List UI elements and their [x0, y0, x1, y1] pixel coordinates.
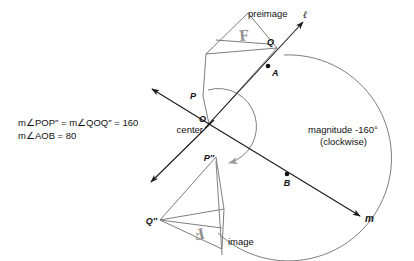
equation-line-2: m∠AOB = 80 — [18, 130, 76, 141]
rotation-diagram-svg: F F preimage — [0, 0, 414, 261]
image-shape: F — [160, 157, 224, 255]
rotation-arc — [208, 89, 256, 163]
point-q-label: Q — [267, 37, 274, 47]
line-ell-label: ℓ — [303, 9, 307, 20]
line-m-label: m — [365, 213, 374, 224]
line-m — [152, 89, 360, 216]
magnitude-label-line1: magnitude -160° — [308, 124, 378, 135]
point-o-label: O — [199, 114, 206, 124]
point-a-label: A — [271, 68, 279, 78]
magnitude-label-line2: (clockwise) — [320, 136, 367, 147]
point-p-label: P — [190, 91, 197, 101]
center-label: center — [177, 124, 203, 135]
point-b-label: B — [284, 178, 291, 188]
point-p-double-prime-label: P″ — [204, 153, 215, 163]
point-b-dot — [285, 172, 290, 177]
image-letter-f: F — [193, 225, 206, 244]
point-a-dot — [266, 64, 271, 69]
preimage-label: preimage — [248, 8, 288, 19]
equation-line-1: m∠POP″ = m∠QOQ″ = 160 — [18, 117, 138, 128]
image-label: image — [228, 236, 254, 247]
point-q-double-prime-label: Q″ — [146, 216, 158, 226]
preimage-shape: F — [203, 13, 277, 124]
figure-canvas: F F preimage — [0, 0, 414, 261]
preimage-letter-f: F — [239, 26, 251, 44]
